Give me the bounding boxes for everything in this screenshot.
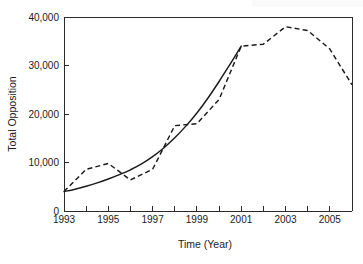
x-tick-label-1999: 1999 — [186, 214, 209, 225]
x-tick-label-2005: 2005 — [319, 214, 342, 225]
x-axis-title: Time (Year) — [178, 238, 232, 250]
x-tick-label-1995: 1995 — [97, 214, 120, 225]
y-tick-label-30000: 30,000 — [28, 60, 59, 71]
scan-edge-artifact — [252, 0, 363, 7]
y-tick-label-40000: 40,000 — [28, 12, 59, 23]
x-tick-label-1997: 1997 — [141, 214, 164, 225]
series-observed-opposition-line — [64, 27, 352, 192]
x-axis-ticks — [64, 206, 330, 211]
series-fitted-trend-line — [64, 46, 241, 192]
y-tick-label-10000: 10,000 — [28, 157, 59, 168]
chart-figure: 0 10,000 20,000 30,000 40,000 1993 1995 … — [0, 0, 363, 264]
x-tick-label-2003: 2003 — [274, 214, 297, 225]
y-axis-ticks — [64, 17, 69, 211]
x-tick-label-2001: 2001 — [230, 214, 253, 225]
data-series-group — [64, 27, 352, 192]
plot-frame — [64, 17, 352, 211]
chart-canvas: 0 10,000 20,000 30,000 40,000 1993 1995 … — [0, 0, 363, 264]
x-axis-tick-labels: 1993 1995 1997 1999 2001 2003 2005 — [53, 214, 341, 225]
y-axis-tick-labels: 0 10,000 20,000 30,000 40,000 — [28, 12, 59, 217]
y-tick-label-20000: 20,000 — [28, 109, 59, 120]
y-axis-title: Total Opposition — [6, 76, 18, 151]
x-tick-label-1993: 1993 — [53, 214, 76, 225]
